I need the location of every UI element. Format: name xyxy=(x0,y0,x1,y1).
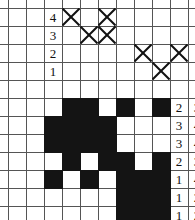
filled-cell[interactable] xyxy=(152,170,171,189)
filled-cell[interactable] xyxy=(80,116,99,135)
right-label-second: 2 xyxy=(188,206,195,220)
right-label-second: 4 xyxy=(188,116,195,134)
filled-cell[interactable] xyxy=(80,98,99,117)
x-mark-icon[interactable] xyxy=(98,8,116,26)
filled-cell[interactable] xyxy=(116,152,135,171)
right-label-second: 3 xyxy=(188,152,195,170)
filled-cell[interactable] xyxy=(62,134,81,153)
filled-cell[interactable] xyxy=(98,152,117,171)
filled-cell[interactable] xyxy=(98,134,117,153)
x-mark-icon[interactable] xyxy=(152,62,170,80)
filled-cell[interactable] xyxy=(80,170,99,189)
row-label: 3 xyxy=(44,26,62,44)
filled-cell[interactable] xyxy=(152,152,171,171)
right-label-first: 2 xyxy=(170,98,188,116)
right-label-second: 4 xyxy=(188,134,195,152)
row-label: 4 xyxy=(44,8,62,26)
filled-cell[interactable] xyxy=(62,152,81,171)
filled-cell[interactable] xyxy=(134,188,153,207)
filled-cell[interactable] xyxy=(98,116,117,135)
grid-worksheet: 4321 2334342314121214 xyxy=(0,0,195,220)
row-label: 1 xyxy=(44,62,62,80)
filled-cell[interactable] xyxy=(134,170,153,189)
filled-cell[interactable] xyxy=(152,98,171,117)
x-mark-icon[interactable] xyxy=(80,26,98,44)
x-mark-icon[interactable] xyxy=(62,8,80,26)
x-mark-icon[interactable] xyxy=(134,44,152,62)
x-mark-icon[interactable] xyxy=(98,26,116,44)
filled-cell[interactable] xyxy=(116,206,135,220)
filled-cell[interactable] xyxy=(152,206,171,220)
filled-cell[interactable] xyxy=(44,170,63,189)
filled-cell[interactable] xyxy=(80,134,99,153)
row-label: 2 xyxy=(44,44,62,62)
right-label-first: 3 xyxy=(170,134,188,152)
filled-cell[interactable] xyxy=(134,206,153,220)
filled-cell[interactable] xyxy=(44,116,63,135)
right-label-first: 1 xyxy=(170,188,188,206)
filled-cell[interactable] xyxy=(116,188,135,207)
right-label-first: 2 xyxy=(170,152,188,170)
right-label-first: 3 xyxy=(170,116,188,134)
x-mark-icon[interactable] xyxy=(170,44,188,62)
filled-cell[interactable] xyxy=(152,188,171,207)
right-label-second: 2 xyxy=(188,188,195,206)
filled-cell[interactable] xyxy=(44,134,63,153)
filled-cell[interactable] xyxy=(62,116,81,135)
right-label-first: 1 xyxy=(170,206,188,220)
filled-cell[interactable] xyxy=(116,98,135,117)
filled-cell[interactable] xyxy=(62,98,81,117)
right-label-first: 1 xyxy=(170,170,188,188)
right-label-second: 3 xyxy=(188,98,195,116)
filled-cell[interactable] xyxy=(116,170,135,189)
right-label-second: 4 xyxy=(188,170,195,188)
